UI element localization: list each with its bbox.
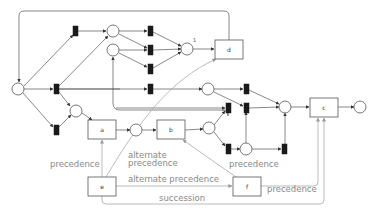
place (107, 44, 119, 56)
activity-e[interactable]: e (88, 177, 116, 196)
end-place (354, 101, 366, 113)
petri-net-arcs (19, 11, 354, 149)
silent-transition (244, 84, 249, 94)
silent-transition (54, 125, 59, 135)
silent-transition (73, 26, 78, 36)
activity-b[interactable]: b (157, 120, 185, 139)
precedence-f-c-edge (261, 118, 318, 186)
precedence-label: precedence (229, 159, 279, 169)
place (279, 101, 291, 113)
place (70, 105, 82, 117)
place (203, 122, 215, 134)
start-place (12, 83, 24, 95)
silent-transition (244, 103, 249, 113)
place (107, 25, 119, 37)
silent-transition (226, 103, 231, 113)
precedence-label: precedence (267, 184, 317, 194)
places: 1 (12, 25, 366, 155)
place (240, 143, 252, 155)
activity-d[interactable]: d (215, 40, 243, 59)
silent-transition (148, 26, 153, 36)
silent-transition (282, 144, 287, 154)
activity-label: c (322, 104, 325, 111)
activity-label: e (100, 183, 104, 190)
place (181, 43, 193, 55)
precedence-label: precedence (50, 159, 100, 169)
activity-a[interactable]: a (88, 120, 116, 139)
succession-label: succession (159, 193, 205, 203)
activities: a b c d e f (88, 40, 338, 196)
silent-transition (148, 84, 153, 94)
place (202, 83, 214, 95)
silent-transition (54, 84, 59, 94)
activity-label: d (227, 46, 231, 53)
silent-transition (226, 144, 231, 154)
alternate-precedence-label: alternate precedence (128, 174, 219, 184)
silent-transition (148, 64, 153, 74)
activity-f[interactable]: f (233, 177, 261, 196)
petri-net-diagram: 1 a b c d (0, 0, 375, 217)
place (130, 124, 142, 136)
activity-label: b (169, 126, 173, 133)
activity-label: a (100, 126, 104, 133)
place-weight-label: 1 (193, 37, 196, 43)
silent-transition (148, 45, 153, 55)
activity-c[interactable]: c (310, 98, 338, 117)
alternate-precedence-label-line2: precedence (128, 158, 178, 168)
